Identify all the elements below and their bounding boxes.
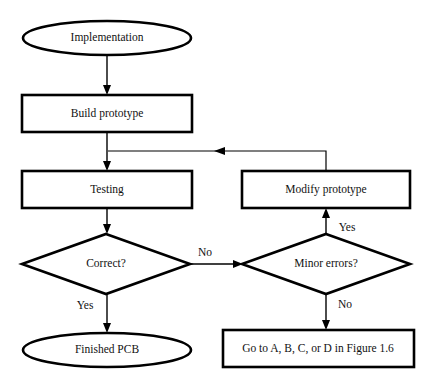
edge-implementation-to-build — [103, 55, 111, 95]
arrow-head-up-icon — [322, 208, 330, 218]
edge-label-minor-no: No — [338, 298, 352, 310]
node-go-to-figure[interactable]: Go to A, B, C, or D in Figure 1.6 — [223, 330, 414, 367]
correct-decision-label: Correct? — [86, 257, 126, 269]
modify-prototype-label: Modify prototype — [285, 183, 366, 196]
edge-modify-feedback-to-testing — [108, 147, 326, 171]
edge-label-correct-yes: Yes — [77, 299, 94, 311]
flowchart-canvas: Minor errors? --> No Finished PCB --> Ye… — [0, 0, 447, 388]
node-correct-decision[interactable]: Correct? — [22, 234, 190, 294]
edge-label-correct-no: No — [198, 246, 212, 258]
node-testing[interactable]: Testing — [22, 171, 192, 208]
edge-label-minor-yes: Yes — [339, 221, 356, 233]
connector-path — [108, 151, 326, 171]
testing-label: Testing — [90, 183, 124, 196]
edge-testing-to-correct — [103, 208, 111, 234]
arrow-head-down-icon — [103, 224, 111, 234]
node-minor-errors-decision[interactable]: Minor errors? — [242, 234, 410, 294]
build-prototype-label: Build prototype — [71, 107, 144, 120]
arrow-head-down-icon — [103, 85, 111, 95]
node-finished-pcb[interactable]: Finished PCB — [23, 333, 191, 367]
flowchart-figure: Minor errors? --> No Finished PCB --> Ye… — [0, 0, 447, 388]
edge-correct-yes-to-finished: Yes — [77, 294, 111, 333]
arrow-head-down-icon — [103, 161, 111, 171]
arrow-head-left-icon — [214, 147, 225, 155]
go-to-figure-label: Go to A, B, C, or D in Figure 1.6 — [242, 342, 394, 355]
finished-pcb-label: Finished PCB — [75, 343, 140, 355]
node-build-prototype[interactable]: Build prototype — [22, 95, 192, 132]
node-modify-prototype[interactable]: Modify prototype — [242, 171, 410, 208]
node-implementation[interactable]: Implementation — [23, 21, 191, 55]
minor-errors-decision-label: Minor errors? — [294, 257, 358, 269]
edge-minor-no-to-goto: No — [322, 294, 352, 330]
arrow-head-down-icon — [103, 323, 111, 333]
arrow-head-down-icon — [322, 320, 330, 330]
edge-minor-yes-to-modify: Yes — [322, 208, 356, 234]
edge-correct-no-to-minor: No — [190, 246, 243, 268]
implementation-label: Implementation — [71, 31, 144, 44]
